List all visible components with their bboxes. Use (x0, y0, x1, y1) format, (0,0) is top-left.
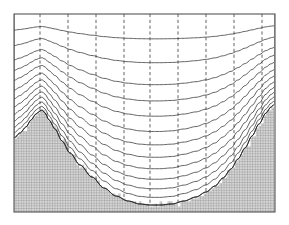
figure-root (0, 0, 289, 225)
terrain-coordinate-grid-svg (0, 0, 289, 225)
